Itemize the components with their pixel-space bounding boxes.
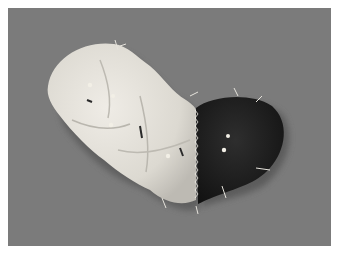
photo bbox=[8, 8, 331, 246]
fabric-object bbox=[8, 8, 331, 246]
